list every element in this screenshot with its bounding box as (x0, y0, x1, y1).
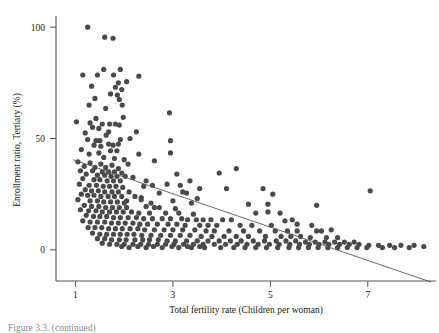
data-point (183, 223, 188, 228)
data-point (118, 137, 123, 142)
data-point (296, 245, 301, 250)
data-point (120, 226, 125, 231)
data-point (129, 209, 134, 214)
data-point (265, 209, 270, 214)
data-point (295, 228, 300, 233)
data-point (332, 239, 337, 244)
data-point (93, 208, 98, 213)
data-point (118, 232, 123, 237)
data-point (309, 223, 314, 228)
data-point (123, 221, 128, 226)
data-point (364, 245, 369, 250)
data-point (145, 222, 150, 227)
data-point (109, 237, 114, 242)
data-point (109, 221, 114, 226)
data-point (194, 217, 199, 222)
data-point (260, 186, 265, 191)
data-point (152, 227, 157, 232)
data-point (197, 244, 202, 249)
data-point (251, 238, 256, 243)
y-tick-label: 0 (40, 245, 45, 255)
data-point (136, 74, 141, 79)
data-point (157, 190, 162, 195)
data-point (135, 244, 140, 249)
data-point (96, 150, 101, 155)
data-point (212, 228, 217, 233)
data-point (121, 209, 126, 214)
data-point (98, 144, 103, 149)
data-point (286, 245, 291, 250)
data-point (158, 233, 163, 238)
data-point (104, 232, 109, 237)
data-point (263, 234, 268, 239)
data-point (118, 215, 123, 220)
data-point (130, 221, 135, 226)
data-point (118, 67, 123, 72)
data-point (102, 236, 107, 241)
data-point (306, 245, 311, 250)
data-point (106, 194, 111, 199)
data-point (111, 232, 116, 237)
data-point (112, 156, 117, 161)
data-point (103, 165, 108, 170)
data-point (170, 227, 175, 232)
data-point (126, 161, 131, 166)
data-point (223, 242, 228, 247)
data-point (83, 130, 88, 135)
data-point (278, 234, 283, 239)
data-point (124, 205, 129, 210)
data-point (97, 138, 102, 143)
data-point (119, 87, 124, 92)
data-point (85, 193, 90, 198)
data-point (168, 150, 173, 155)
data-point (165, 222, 170, 227)
data-point (157, 205, 162, 210)
y-axis-ticks: 050100 (31, 23, 56, 256)
data-point (144, 178, 149, 183)
data-point (95, 236, 100, 241)
data-point (86, 208, 91, 213)
data-point (209, 234, 214, 239)
data-point (94, 183, 99, 188)
data-point (107, 242, 112, 247)
data-point (102, 189, 107, 194)
data-point (108, 148, 113, 153)
data-point (324, 235, 329, 240)
data-point (179, 216, 184, 221)
data-point (180, 227, 185, 232)
x-tick-label: 1 (73, 290, 78, 300)
data-point (169, 244, 174, 249)
data-point (168, 138, 173, 143)
data-point (78, 168, 83, 173)
data-point (214, 223, 219, 228)
data-point (148, 200, 153, 205)
data-point (127, 226, 132, 231)
data-point (156, 237, 161, 242)
data-point (106, 141, 111, 146)
y-tick-label: 100 (31, 23, 46, 33)
data-point (176, 210, 181, 215)
data-point (80, 72, 85, 77)
data-point (96, 204, 101, 209)
data-point (208, 217, 213, 222)
data-point (110, 36, 115, 41)
data-point (79, 147, 84, 152)
data-point (264, 245, 269, 250)
data-point (290, 217, 295, 222)
data-point (192, 227, 197, 232)
data-point (87, 102, 92, 107)
data-point (238, 223, 243, 228)
data-point (160, 216, 165, 221)
data-point (95, 173, 100, 178)
data-point (142, 227, 147, 232)
data-point (77, 182, 82, 187)
data-point (234, 234, 239, 239)
data-point (421, 244, 426, 249)
data-point (87, 151, 92, 156)
figure-caption: Figure 3.3. (continued) (8, 323, 96, 333)
data-point (78, 207, 83, 212)
data-point (191, 212, 196, 217)
data-point (111, 178, 116, 183)
data-point (148, 233, 153, 238)
